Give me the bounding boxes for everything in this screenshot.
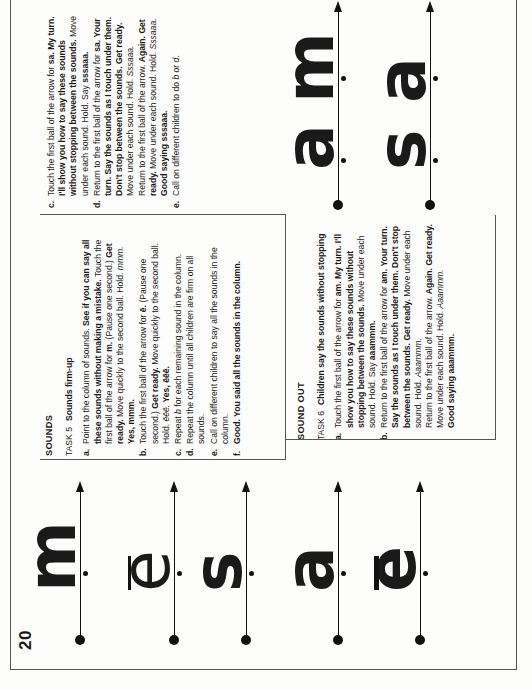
step-text: Return to the first ball of the arrow. [137, 62, 147, 196]
task-6-title: Children say the sounds without stopping [316, 234, 327, 405]
arrow-line [430, 10, 431, 205]
column-divider [40, 214, 286, 215]
workbook-page: 20 SOUNDS TASK 5 Sounds firm-up a.Point … [0, 0, 532, 690]
step-label: b. [138, 448, 149, 456]
sound-letter: a [276, 546, 344, 592]
start-ball-icon [415, 635, 425, 645]
step-text: b [173, 409, 183, 414]
task-5-number: TASK 5 [64, 427, 75, 456]
task-5-title: Sounds firm-up [64, 358, 75, 422]
step-item: b.Touch the first ball of the arrow for … [138, 230, 172, 456]
arrow-head-icon [416, 481, 424, 492]
step-text: Move under each sound. Hold. [148, 49, 158, 171]
sound-letter: e [112, 550, 180, 592]
sound-letter: s [184, 552, 252, 592]
step-text: Move under each sound. Hold. [435, 309, 445, 428]
word-letter: m [276, 32, 344, 103]
step-item: c.Touch the first ball of the arrow for … [46, 8, 91, 208]
step-label: c. [173, 449, 184, 456]
step-text [92, 37, 102, 39]
step-text: Call on different children to do [171, 80, 181, 196]
step-text: aaammm. [367, 321, 377, 361]
sounds-heading: SOUNDS [44, 230, 55, 456]
step-text: Return to the first ball of the arrow fo… [379, 284, 389, 428]
step-text [161, 402, 171, 404]
task-6-continued-column: c.Touch the first ball of the arrow for … [46, 8, 183, 208]
step-item: f.Good. You said all the sounds in the c… [232, 230, 243, 456]
step-text: Move quickly to the second ball. Hold. [115, 270, 125, 419]
word-letter: a [276, 124, 344, 170]
step-text: Yes, ēēē. [161, 366, 171, 402]
section-divider [285, 215, 286, 460]
sound-out-column: SOUND OUT TASK 6 Children say the sounds… [296, 220, 459, 440]
step-text: m. [104, 342, 114, 352]
step-text: Get ready. [150, 367, 160, 408]
step-text [46, 50, 56, 52]
page-number: 20 [16, 630, 36, 650]
step-text: Call on different children to say all th… [209, 247, 230, 444]
step-text: Good. You said all the sounds in the col… [232, 261, 242, 444]
step-text: Again. Get ready. [424, 224, 434, 294]
step-text: Touch the first ball of the arrow for [138, 312, 148, 444]
step-text: Good saying sssaaa. [159, 111, 169, 197]
step-item: b.Return to the first ball of the arrow … [379, 220, 457, 440]
step-label: e. [171, 201, 182, 208]
arrow-head-icon [242, 481, 250, 492]
sound-letter: m [18, 521, 86, 592]
task-6-number: TASK 6 [316, 411, 327, 440]
top-rule [10, 0, 11, 670]
task-5-steps: a.Point to the column of sounds. See if … [81, 230, 243, 456]
arrow-head-icon [170, 481, 178, 492]
step-item: e.Call on different children to do b or … [171, 8, 182, 208]
start-ball-icon [241, 635, 251, 645]
step-label: a. [81, 449, 92, 456]
step-text: Return to the first ball of the arrow fo… [92, 52, 102, 196]
arrow-head-icon [334, 481, 342, 492]
step-text: for each remaining sound in the column. [173, 254, 183, 409]
step-item: d.Return to the first ball of the arrow … [92, 8, 170, 208]
step-text: ēēē. [161, 405, 171, 422]
sound-out-heading: SOUND OUT [296, 220, 307, 440]
step-text: Point to the column of sounds. [81, 326, 91, 444]
step-text: sa. [46, 52, 56, 64]
macron-mark [128, 556, 131, 590]
step-text: Touch the first ball of the arrow for [46, 64, 56, 196]
step-text: Sssaaa. [148, 18, 158, 49]
step-text [333, 279, 343, 281]
step-label: e. [209, 449, 220, 456]
step-text: Move under each sound. Hold. [125, 77, 135, 196]
sound-out-box-bottom [495, 215, 496, 440]
step-text: Yes, mmm. [126, 399, 136, 444]
step-item: c.Repeat b for each remaining sound in t… [173, 230, 184, 456]
section-divider-left [40, 459, 286, 460]
step-text: Return to the first ball of the arrow. [424, 294, 434, 428]
arrow-head-icon [426, 1, 434, 12]
step-text: sa. [92, 40, 102, 52]
step-label: d. [92, 200, 103, 208]
step-text: d [171, 58, 181, 63]
step-text: am. [333, 281, 343, 296]
step-text: . [171, 55, 181, 57]
left-rule [10, 669, 517, 670]
step-text: Sssaaa. [125, 46, 135, 77]
step-item: a.Point to the column of sounds. See if … [81, 230, 137, 456]
task-6-steps: a.Touch the first ball of the arrow for … [333, 220, 457, 440]
step-item: e.Call on different children to say all … [209, 230, 231, 456]
task-5-header: TASK 5 Sounds firm-up [64, 230, 75, 456]
start-ball-icon [169, 635, 179, 645]
step-label: c. [46, 201, 57, 208]
step-text: Touch the first ball of the arrow for [333, 296, 343, 428]
step-text: (Pause one second.) [104, 258, 114, 342]
step-label: d. [185, 448, 196, 456]
step-text: sssaaa. [80, 52, 90, 83]
task-6-continued-steps: c.Touch the first ball of the arrow for … [46, 8, 182, 208]
sound-letter: e [358, 546, 426, 592]
step-text: mmm. [115, 246, 125, 270]
step-text: Repeat the column until all children are… [185, 256, 206, 444]
bottom-rule [516, 0, 517, 670]
start-ball-icon [425, 200, 435, 210]
arrow-head-icon [76, 481, 84, 492]
step-item: a.Touch the first ball of the arrow for … [333, 220, 378, 440]
step-label: f. [232, 451, 243, 456]
step-text: Aaammm. [413, 338, 423, 377]
